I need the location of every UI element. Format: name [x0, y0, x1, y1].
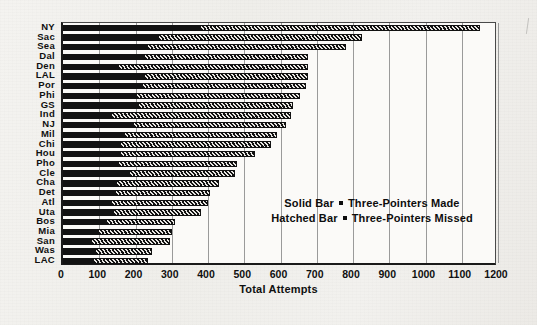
bar-segment-made: [63, 229, 99, 235]
bar-row: [63, 73, 495, 79]
bar-row: [63, 238, 495, 244]
bar-segment-made: [63, 83, 143, 89]
y-tick-label: San: [37, 236, 55, 245]
x-axis-title: Total Attempts: [61, 283, 496, 295]
bar-segment-made: [63, 170, 130, 176]
stacked-bar: [63, 161, 237, 167]
stacked-bar: [63, 258, 148, 264]
x-tick-label: 400: [197, 268, 215, 280]
bar-row: [63, 161, 495, 167]
stacked-bar: [63, 25, 480, 31]
bar-segment-made: [63, 141, 121, 147]
bar-series-container: [63, 23, 495, 263]
bar-segment-missed: [139, 102, 293, 108]
stacked-bar: [63, 122, 286, 128]
y-tick-label: Sea: [37, 41, 55, 50]
y-tick-label: Sac: [37, 32, 55, 41]
three-point-attempts-chart: NYSacSeaDalDenLALPorPhiGSIndNJMilChiHouP…: [0, 0, 537, 325]
bar-row: [63, 258, 495, 264]
bar-segment-made: [63, 200, 112, 206]
y-tick-label: NJ: [42, 119, 55, 128]
bar-segment-missed: [119, 161, 237, 167]
x-tick-label: 1100: [448, 268, 471, 280]
y-tick-label: Mil: [41, 129, 55, 138]
stacked-bar: [63, 44, 346, 50]
stacked-bar: [63, 102, 293, 108]
bar-row: [63, 200, 495, 206]
bar-row: [63, 190, 495, 196]
bar-segment-missed: [159, 34, 362, 40]
y-tick-label: LAC: [35, 255, 55, 264]
bar-segment-missed: [125, 132, 277, 138]
x-tick-label: 600: [270, 268, 288, 280]
bar-segment-missed: [134, 122, 286, 128]
stacked-bar: [63, 170, 235, 176]
bar-segment-missed: [201, 25, 480, 31]
y-tick-label: LAL: [36, 70, 55, 79]
bar-segment-missed: [121, 141, 271, 147]
bar-segment-made: [63, 209, 114, 215]
y-tick-label: Det: [39, 187, 55, 196]
bar-segment-made: [63, 64, 119, 70]
y-tick-label: GS: [41, 100, 55, 109]
bar-segment-missed: [145, 54, 308, 60]
stacked-bar: [63, 73, 308, 79]
x-tick-label: 1000: [412, 268, 435, 280]
bar-segment-missed: [96, 248, 152, 254]
stacked-bar: [63, 151, 255, 157]
bar-segment-missed: [92, 238, 170, 244]
bar-segment-made: [63, 151, 121, 157]
y-tick-label: Phi: [39, 90, 55, 99]
bar-segment-made: [63, 219, 107, 225]
bar-segment-missed: [112, 200, 208, 206]
y-axis-team-labels: NYSacSeaDalDenLALPorPhiGSIndNJMilChiHouP…: [0, 22, 58, 265]
bar-segment-made: [63, 54, 145, 60]
bar-row: [63, 180, 495, 186]
y-tick-label: Dal: [39, 51, 55, 60]
bar-row: [63, 54, 495, 60]
y-tick-label: Was: [35, 245, 55, 254]
bar-row: [63, 209, 495, 215]
bar-segment-made: [63, 161, 119, 167]
stacked-bar: [63, 64, 308, 70]
bar-segment-missed: [107, 219, 176, 225]
bar-segment-made: [63, 25, 201, 31]
stacked-bar: [63, 132, 277, 138]
y-tick-label: Ind: [40, 109, 55, 118]
bar-segment-made: [63, 122, 134, 128]
bar-segment-made: [63, 102, 139, 108]
bar-segment-missed: [119, 64, 308, 70]
bar-row: [63, 112, 495, 118]
bar-segment-missed: [137, 93, 300, 99]
bar-segment-missed: [121, 151, 255, 157]
bar-segment-made: [63, 180, 117, 186]
y-tick-label: Chi: [39, 139, 55, 148]
scan-artifact: [526, 18, 529, 34]
bar-segment-made: [63, 258, 94, 264]
bar-segment-missed: [116, 190, 210, 196]
x-tick-label: 0: [58, 268, 64, 280]
bar-segment-made: [63, 34, 159, 40]
bar-segment-missed: [99, 229, 172, 235]
stacked-bar: [63, 93, 300, 99]
bar-segment-missed: [117, 180, 219, 186]
bar-row: [63, 64, 495, 70]
y-tick-label: Hou: [36, 148, 55, 157]
x-tick-label: 1200: [484, 268, 507, 280]
bar-row: [63, 170, 495, 176]
bar-segment-made: [63, 238, 92, 244]
bar-row: [63, 122, 495, 128]
stacked-bar: [63, 209, 201, 215]
x-tick-label: 500: [233, 268, 251, 280]
y-tick-label: NY: [41, 22, 55, 31]
bar-segment-missed: [145, 73, 308, 79]
bar-segment-missed: [148, 44, 346, 50]
x-tick-label: 800: [342, 268, 360, 280]
x-tick-label: 900: [378, 268, 396, 280]
bar-segment-missed: [130, 170, 235, 176]
x-tick-label: 100: [88, 268, 106, 280]
bar-row: [63, 248, 495, 254]
bar-segment-missed: [94, 258, 148, 264]
gridline: [498, 23, 499, 263]
bar-segment-made: [63, 44, 148, 50]
